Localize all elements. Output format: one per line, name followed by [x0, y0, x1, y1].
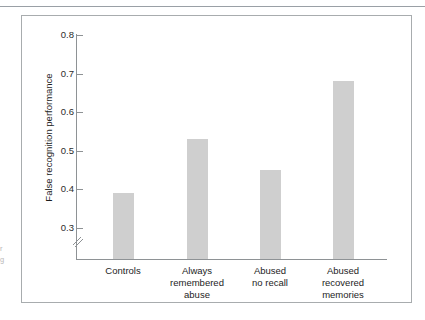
bar — [260, 170, 281, 259]
y-axis-line — [76, 34, 77, 259]
x-axis-category-label-line: Abused — [299, 265, 387, 277]
x-axis-category-label: Abusedrecoveredmemories — [299, 265, 387, 301]
figure-frame: 0.30.40.50.60.70.8 False recognition per… — [21, 15, 412, 303]
y-axis-tick — [77, 228, 83, 229]
y-axis-tick-label: 0.8 — [40, 29, 74, 41]
y-axis-break-icon — [72, 235, 84, 249]
y-axis-tick — [77, 151, 83, 152]
bar-chart-plot-area: 0.30.40.50.60.70.8 False recognition per… — [22, 16, 413, 304]
x-axis-line — [76, 259, 387, 260]
x-axis-category-label-line: recovered — [299, 277, 387, 289]
y-axis-tick — [77, 74, 83, 75]
y-axis-tick — [77, 35, 83, 36]
y-axis-title: False recognition performance — [43, 43, 54, 233]
caption-sliver-line-2: g — [0, 254, 10, 265]
y-axis-tick — [77, 189, 83, 190]
page-top-rule — [0, 6, 425, 7]
x-axis-category-label-line: memories — [299, 289, 387, 301]
y-axis-tick — [77, 112, 83, 113]
bar — [113, 193, 134, 259]
x-axis-category-label-line: abuse — [153, 289, 241, 301]
y-axis-tick-label-text: 0.8 — [46, 29, 74, 40]
caption-sliver-line-1: r — [0, 243, 10, 254]
bar — [333, 81, 354, 259]
caption-text-sliver: r g — [0, 243, 10, 283]
bar — [187, 139, 208, 259]
